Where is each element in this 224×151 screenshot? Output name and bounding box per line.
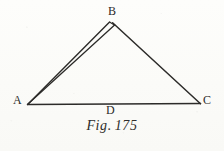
vertex-label-a: A	[13, 94, 22, 106]
caption-number-text: 175	[115, 118, 138, 133]
edge-AB-inner-stroke	[28, 25, 115, 104]
point-label-d: D	[106, 104, 115, 116]
figure-page: A B C D Fig.175	[0, 0, 224, 151]
vertex-label-b: B	[108, 5, 116, 17]
edge-BC	[113, 23, 201, 104]
edge-AB-outer-stroke	[28, 22, 110, 104]
vertex-label-c: C	[203, 94, 211, 106]
figure-caption: Fig.175	[0, 119, 224, 133]
caption-label-text: Fig.	[86, 118, 111, 133]
